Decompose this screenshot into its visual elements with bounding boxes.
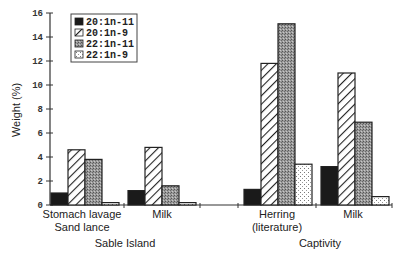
y-axis-label: Weight (%) [10, 83, 22, 137]
category-label: Milk [152, 208, 172, 220]
category-label: Herring [259, 208, 295, 220]
bar-20-1n-9-1 [145, 147, 162, 205]
category-label: Milk [343, 208, 363, 220]
legend-swatch-icon [75, 40, 83, 47]
bar-22-1n-11-3 [355, 122, 372, 205]
legend-label: 20:1n-9 [86, 28, 128, 39]
y-tick-label: 16 [32, 9, 43, 19]
y-axis: 0246810121416 [32, 9, 53, 211]
bar-22-1n-11-1 [162, 186, 179, 205]
y-tick-label: 6 [38, 129, 43, 139]
y-tick-label: 4 [38, 153, 44, 163]
bar-22-1n-9-2 [295, 164, 312, 205]
legend-swatch-icon [75, 18, 83, 25]
category-label: Sand lance [54, 221, 109, 233]
y-tick-label: 2 [38, 177, 43, 187]
y-tick-label: 8 [38, 105, 43, 115]
legend: 20:1n-1120:1n-922:1n-1122:1n-9 [71, 14, 137, 62]
category-labels: Stomach lavageSand lanceMilkHerring(lite… [43, 208, 364, 249]
bar-20-1n-9-0 [68, 150, 85, 205]
legend-swatch-icon [75, 29, 83, 36]
bar-22-1n-11-0 [85, 159, 102, 205]
legend-label: 22:1n-9 [86, 50, 128, 61]
y-tick-label: 10 [32, 81, 43, 91]
legend-label: 20:1n-11 [86, 17, 134, 28]
legend-swatch-icon [75, 51, 83, 58]
category-label: Stomach lavage [43, 208, 122, 220]
bar-22-1n-11-2 [278, 24, 295, 205]
bar-22-1n-9-1 [179, 203, 196, 205]
bar-22-1n-9-0 [102, 203, 119, 205]
y-tick-label: 12 [32, 57, 43, 67]
bar-20-1n-9-3 [338, 73, 355, 205]
bar-20-1n-11-0 [51, 193, 68, 205]
bar-20-1n-11-1 [128, 191, 145, 205]
bar-20-1n-11-3 [321, 167, 338, 205]
y-tick-label: 14 [32, 33, 43, 43]
group-label: Captivity [299, 237, 342, 249]
group-label: Sable Island [95, 237, 156, 249]
bar-20-1n-11-2 [244, 189, 261, 205]
bar-22-1n-9-3 [372, 197, 389, 205]
legend-label: 22:1n-11 [86, 39, 134, 50]
bar-20-1n-9-2 [261, 63, 278, 205]
bar-chart: 0246810121416 Stomach lavageSand lanceMi… [0, 0, 403, 261]
category-label: (literature) [252, 221, 302, 233]
